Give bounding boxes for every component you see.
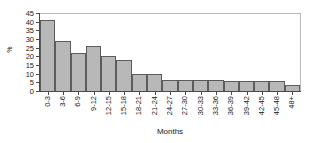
y-axis-tick-label: 20 [26,53,34,60]
x-label-slot: 15-18 [116,92,131,126]
bar [162,80,177,91]
x-axis-tick-label: 36-39 [227,96,235,115]
x-axis-tick-mark [262,92,263,95]
bar [132,74,147,91]
x-label-slot: 30-33 [193,92,208,126]
y-axis-tick-label: 10 [26,70,34,77]
x-label-slot: 12-15 [101,92,116,126]
x-axis-tick-mark [139,92,140,95]
y-axis-tick-label: 45 [26,10,34,17]
x-axis-tick-mark [277,92,278,95]
bar-slot [162,13,177,91]
y-axis-tick-label: 35 [26,27,34,34]
x-axis-tick-labels: 0-33-66-99-1212-1515-1818-2121-2424-2727… [40,92,300,126]
bar-slot [269,13,284,91]
x-axis-tick-mark [292,92,293,95]
x-label-slot: 42-45 [254,92,269,126]
bar [285,85,300,91]
x-axis-tick-label: 0-3 [44,96,52,107]
x-axis-tick-mark [94,92,95,95]
x-axis-tick-label: 12-15 [105,96,113,115]
x-axis-tick-label: 39-42 [243,96,251,115]
x-label-slot: 18-21 [132,92,147,126]
x-label-slot: 45-48 [269,92,284,126]
bar-slot [86,13,101,91]
bar-slot [178,13,193,91]
x-label-slot: 3-6 [55,92,70,126]
x-axis-tick-label: 33-36 [212,96,220,115]
bar-chart: % 051015202530354045 0-33-66-99-1212-151… [0,0,309,143]
x-axis-tick-label: 3-6 [59,96,67,107]
bar [147,74,162,91]
x-axis-tick-mark [216,92,217,95]
x-axis-tick-mark [231,92,232,95]
bar [208,80,223,91]
x-axis-tick-mark [124,92,125,95]
x-axis-tick-label: 42-45 [258,96,266,115]
x-axis-tick-label: 48+ [288,96,296,109]
x-axis-tick-mark [109,92,110,95]
x-axis-tick-mark [247,92,248,95]
bar-slot [55,13,70,91]
bar [71,53,86,91]
bar-slot [193,13,208,91]
bar [116,60,131,91]
x-axis-tick-mark [185,92,186,95]
x-axis-tick-mark [63,92,64,95]
y-axis-tick-label: 0 [30,88,34,95]
bar [40,20,55,91]
y-axis-tick-labels: 051015202530354045 [0,0,39,105]
x-axis-tick-mark [170,92,171,95]
x-axis-tick-label: 45-48 [273,96,281,115]
y-axis-tick-label: 30 [26,36,34,43]
bar [224,81,239,91]
x-axis-tick-mark [48,92,49,95]
x-label-slot: 24-27 [162,92,177,126]
x-label-slot: 48+ [285,92,300,126]
bar [193,80,208,91]
bar [239,81,254,91]
x-axis-tick-mark [155,92,156,95]
x-axis-tick-label: 24-27 [166,96,174,115]
bar-slot [116,13,131,91]
x-label-slot: 36-39 [224,92,239,126]
y-axis-tick-label: 15 [26,62,34,69]
bar-slot [224,13,239,91]
x-label-slot: 27-30 [178,92,193,126]
bar [269,81,284,91]
x-axis-tick-label: 15-18 [120,96,128,115]
bar-slot [147,13,162,91]
x-label-slot: 39-42 [239,92,254,126]
bar-slot [239,13,254,91]
bar-series [40,13,300,91]
x-axis-tick-label: 9-12 [90,96,98,111]
bar [86,46,101,91]
x-axis-tick-label: 30-33 [197,96,205,115]
x-label-slot: 21-24 [147,92,162,126]
bar [254,81,269,91]
x-label-slot: 0-3 [40,92,55,126]
y-axis-tick-label: 40 [26,18,34,25]
bar [55,41,70,91]
x-axis-tick-label: 18-21 [135,96,143,115]
x-axis-tick-label: 21-24 [151,96,159,115]
bar-slot [254,13,269,91]
bar-slot [40,13,55,91]
y-axis-tick-label: 25 [26,44,34,51]
bar-slot [208,13,223,91]
bar-slot [71,13,86,91]
y-axis-tick-label: 5 [30,79,34,86]
x-axis-tick-label: 6-9 [74,96,82,107]
x-axis-tick-mark [78,92,79,95]
bar-slot [285,13,300,91]
bar [101,56,116,91]
x-label-slot: 33-36 [208,92,223,126]
bar-slot [132,13,147,91]
bar [178,80,193,91]
x-label-slot: 9-12 [86,92,101,126]
bar-slot [101,13,116,91]
x-label-slot: 6-9 [71,92,86,126]
x-axis-tick-label: 27-30 [181,96,189,115]
x-axis-title: Months [39,127,301,136]
x-axis-tick-mark [201,92,202,95]
